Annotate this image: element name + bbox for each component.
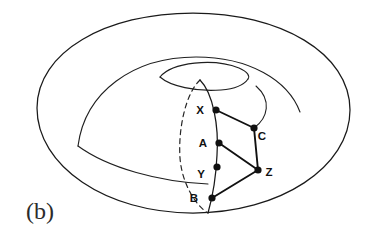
vertex-dot-Y	[213, 163, 220, 170]
edge-Z-B	[212, 170, 258, 198]
vertex-label-X: X	[196, 104, 204, 116]
graph-edges	[212, 110, 258, 198]
edge-A-Z	[219, 143, 258, 170]
edge-X-C	[216, 110, 254, 128]
torus-diagram: X A Y B C Z (b)	[0, 0, 375, 237]
vertex-label-Y: Y	[197, 168, 205, 180]
torus-hole-bottom-arc	[160, 77, 248, 90]
vertex-labels: X A Y B C Z	[190, 104, 273, 204]
vertex-dot-X	[212, 106, 219, 113]
torus-right-lobe	[254, 86, 266, 128]
vertex-label-B: B	[190, 192, 198, 204]
vertex-dot-B	[208, 194, 215, 201]
vertex-dot-A	[215, 139, 222, 146]
vertex-label-C: C	[258, 130, 266, 142]
torus-inner-lower-sweep	[78, 146, 208, 184]
vertex-label-A: A	[199, 137, 207, 149]
torus-hole-top-arc	[160, 62, 249, 79]
vertex-label-Z: Z	[265, 166, 272, 178]
vertex-dot-C	[250, 124, 257, 131]
panel-caption-label: (b)	[26, 198, 54, 224]
torus-inner-upper-ridge	[78, 57, 300, 146]
vertex-dot-Z	[254, 166, 261, 173]
figure-panel-b: X A Y B C Z (b)	[0, 0, 375, 237]
